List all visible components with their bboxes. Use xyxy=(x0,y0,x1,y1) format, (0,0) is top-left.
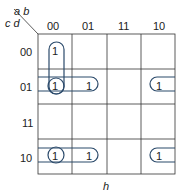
kmap-grid xyxy=(0,0,185,196)
cell-10-01: 1 xyxy=(86,150,92,162)
cell-10-10: 1 xyxy=(156,150,162,162)
cell-01-00: 1 xyxy=(52,80,58,92)
cell-10-00: 1 xyxy=(52,150,58,162)
cell-01-01: 1 xyxy=(86,80,92,92)
cell-01-10: 1 xyxy=(156,80,162,92)
bottom-variable-label: h xyxy=(103,180,109,192)
cell-00-00: 1 xyxy=(52,45,58,57)
